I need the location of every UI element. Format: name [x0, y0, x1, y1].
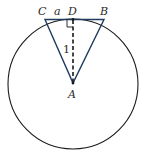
label-a-length: a	[54, 5, 61, 18]
right-angle-marker	[67, 20, 73, 27]
label-a-point: A	[67, 88, 76, 101]
label-one-length: 1	[63, 43, 70, 56]
geometry-diagram: C a D B 1 A	[0, 0, 145, 158]
label-b: B	[99, 5, 108, 18]
point-d-dot	[72, 18, 75, 21]
triangle-abc	[45, 20, 104, 84]
point-a-dot	[72, 82, 75, 85]
label-c: C	[38, 5, 47, 18]
label-d: D	[67, 5, 77, 18]
